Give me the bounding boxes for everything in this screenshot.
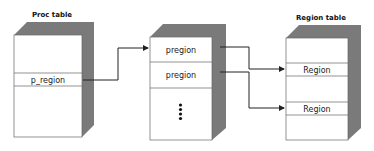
- p-region-entry: p_region: [31, 76, 65, 85]
- region-entry-1: Region: [303, 66, 330, 75]
- region-table-face: [286, 38, 348, 140]
- pregion-table: pregion pregion: [150, 24, 226, 140]
- pregion-entry-2: pregion: [166, 71, 196, 80]
- arrow-pregion2-to-region2: [220, 72, 284, 108]
- proc-table: Proc table p_region: [14, 11, 94, 137]
- pregion-entry-1: pregion: [166, 46, 196, 55]
- region-table-title: Region table: [296, 14, 346, 22]
- arrow-pregion1-to-region1: [220, 47, 284, 69]
- proc-table-title: Proc table: [32, 11, 72, 19]
- region-diagram: Proc table p_region pregion pregion Regi…: [0, 0, 374, 151]
- region-table: Region table Region Region: [286, 14, 361, 140]
- region-entry-2: Region: [303, 105, 330, 114]
